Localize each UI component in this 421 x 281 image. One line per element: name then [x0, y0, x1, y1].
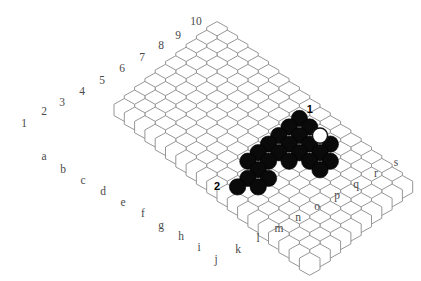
col-label-g: g: [158, 219, 164, 232]
row-label-3: 3: [59, 96, 65, 108]
row-label-8: 8: [158, 39, 164, 51]
black-stone-l5: [281, 153, 297, 169]
col-label-r: r: [374, 167, 378, 179]
col-label-m: m: [275, 222, 284, 234]
col-label-f: f: [141, 207, 145, 219]
row-label-6: 6: [119, 62, 125, 74]
col-label-e: e: [120, 196, 125, 208]
col-label-p: p: [334, 189, 340, 202]
row-label-4: 4: [79, 85, 85, 97]
row-label-1: 1: [21, 117, 27, 129]
col-label-h: h: [178, 230, 184, 242]
hex-board-diagram: 12345678910abcdefghijklmnopqrs 12: [0, 0, 421, 281]
row-label-10: 10: [190, 15, 202, 27]
col-label-c: c: [80, 174, 85, 186]
row-label-5: 5: [99, 74, 105, 86]
col-label-o: o: [314, 200, 320, 212]
col-label-a: a: [41, 150, 46, 162]
col-label-q: q: [353, 178, 359, 191]
board-canvas[interactable]: 12345678910abcdefghijklmnopqrs 12: [0, 0, 421, 281]
col-label-d: d: [100, 185, 106, 197]
row-label-9: 9: [175, 29, 181, 41]
white-stone-l2: [312, 128, 327, 143]
marker-one: 1: [307, 103, 313, 115]
col-label-b: b: [60, 163, 66, 175]
col-label-l: l: [256, 232, 259, 244]
col-label-j: j: [213, 253, 217, 266]
black-stone-k9: [229, 179, 245, 195]
col-label-i: i: [197, 241, 200, 253]
marker-two: 2: [214, 180, 220, 192]
col-label-n: n: [295, 211, 301, 223]
col-label-s: s: [394, 156, 399, 168]
row-label-7: 7: [139, 51, 145, 63]
black-stone-n4: [312, 162, 328, 178]
col-label-k: k: [235, 243, 241, 255]
row-label-2: 2: [41, 105, 47, 117]
black-stone-l8: [250, 179, 266, 195]
